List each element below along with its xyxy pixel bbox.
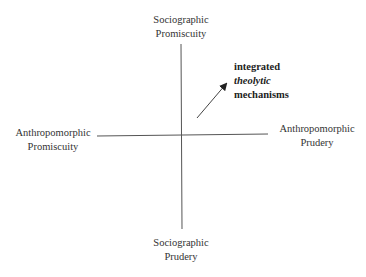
axis-label-left: Anthropomorphic Promiscuity [8, 126, 98, 154]
annotation-line3: mechanisms [234, 88, 289, 102]
axis-label-right: Anthropomorphic Prudery [268, 122, 366, 150]
annotation-line1: integrated [234, 60, 289, 74]
vertical-axis [181, 44, 182, 229]
axis-label-right-line1: Anthropomorphic [268, 122, 366, 136]
horizontal-axis [97, 134, 268, 136]
axis-label-left-line2: Promiscuity [8, 140, 98, 154]
axis-label-top-line1: Sociographic [131, 13, 231, 27]
axis-label-left-line1: Anthropomorphic [8, 126, 98, 140]
axis-label-right-line2: Prudery [268, 136, 366, 150]
annotation-line2: theolytic [234, 74, 289, 88]
annotation: integrated theolytic mechanisms [234, 60, 289, 102]
axis-label-bottom: Sociographic Prudery [131, 236, 231, 264]
axis-label-top-line2: Promiscuity [131, 27, 231, 41]
axis-label-bottom-line2: Prudery [131, 250, 231, 264]
axis-label-top: Sociographic Promiscuity [131, 13, 231, 41]
arrow-icon [197, 84, 226, 118]
axis-label-bottom-line1: Sociographic [131, 236, 231, 250]
